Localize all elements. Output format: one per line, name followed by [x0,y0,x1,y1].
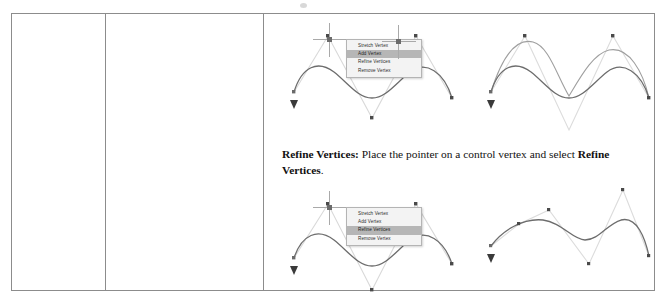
menu-item-refine-vertices[interactable]: Refine Vertices [347,226,421,234]
menu-item-remove-vertex[interactable]: Remove Vertex [347,67,421,75]
menu-item-add-vertex[interactable]: Add Vertex [347,50,421,58]
caption-body-before: Place the pointer on a control vertex an… [359,148,578,160]
caption-lead-label: Refine Vertices: [282,148,359,160]
document-table: Stretch Vertex Add Vertex Refine Vertice… [11,13,655,291]
menu-item-remove-vertex[interactable]: Remove Vertex [347,235,421,243]
context-menu-add-vertex[interactable]: Stretch Vertex Add Vertex Refine Vertice… [346,39,422,78]
scan-speck [300,3,307,8]
caption-body-after: . [321,164,324,176]
figure-row-top: Stretch Vertex Add Vertex Refine Vertice… [273,14,648,132]
table-cell-left-empty [12,14,105,290]
context-menu-refine-vertices[interactable]: Stretch Vertex Add Vertex Refine Vertice… [346,207,422,246]
menu-item-refine-vertices[interactable]: Refine Vertices [347,58,421,66]
menu-item-add-vertex[interactable]: Add Vertex [347,218,421,226]
figure-top-right [473,14,667,132]
menu-item-stretch-vertex[interactable]: Stretch Vertex [347,210,421,218]
figure-bottom-right [473,186,667,304]
caption-paragraph: Refine Vertices: Place the pointer on a … [282,147,638,178]
table-cell-middle-empty [106,14,263,290]
menu-item-stretch-vertex[interactable]: Stretch Vertex [347,42,421,50]
figure-row-bottom: Stretch Vertex Add Vertex Refine Vertice… [273,186,648,304]
table-cell-content: Stretch Vertex Add Vertex Refine Vertice… [264,14,654,290]
